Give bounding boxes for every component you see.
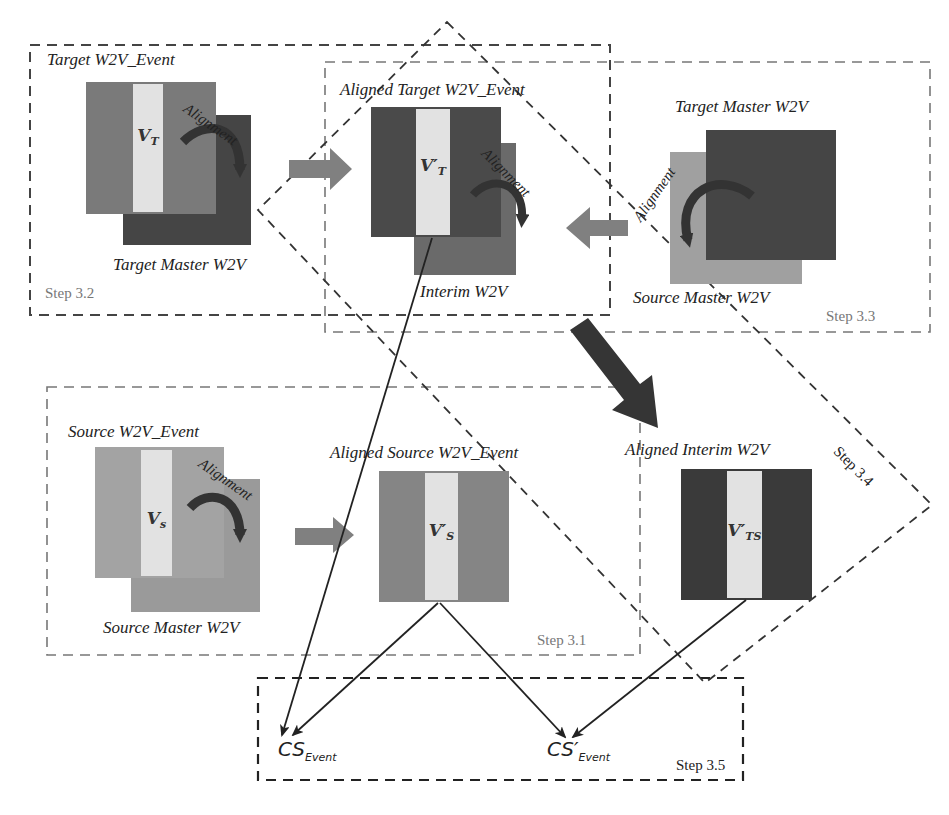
step-3-2-label: Step 3.2 bbox=[45, 285, 94, 302]
target-master-w2v-label: Target Master W2V bbox=[113, 255, 246, 275]
aligned-target-w2v-event-label: Aligned Target W2V_Event bbox=[340, 80, 525, 100]
step-3-5-region bbox=[258, 678, 743, 780]
aligned-interim-w2v-label: Aligned Interim W2V bbox=[625, 440, 769, 460]
vector-vs-label: Vs bbox=[141, 508, 172, 531]
source-master-w2v-label: Source Master W2V bbox=[103, 618, 239, 638]
block-arrow-right bbox=[289, 148, 352, 190]
step-3-5-label: Step 3.5 bbox=[676, 757, 725, 774]
vector-vs-prime-label: V′S bbox=[425, 520, 458, 543]
cs-event-prime-label: CS′Event bbox=[547, 737, 610, 764]
connector-arrow bbox=[293, 603, 438, 735]
step-3-1-label: Step 3.1 bbox=[537, 632, 586, 649]
connector-arrow bbox=[440, 603, 565, 737]
dark-arrow-down-right bbox=[570, 318, 658, 428]
aligned-source-w2v-event-label: Aligned Source W2V_Event bbox=[330, 443, 518, 463]
target-master-w2v-label-33: Target Master W2V bbox=[675, 97, 808, 117]
step-3-3-label: Step 3.3 bbox=[826, 308, 875, 325]
cs-event-label: CSEvent bbox=[278, 737, 337, 764]
alignment-diagram: Target W2V_Event Target Master W2V Align… bbox=[0, 0, 949, 815]
vector-vt-label: VT bbox=[133, 125, 163, 148]
vector-vts-prime-label: V′TS bbox=[722, 520, 767, 543]
source-master-w2v-label-33: Source Master W2V bbox=[633, 288, 769, 308]
interim-w2v-label: Interim W2V bbox=[420, 282, 507, 302]
vector-vt-prime-label: V′T bbox=[416, 155, 450, 178]
target-master-w2v-block-33 bbox=[706, 130, 836, 260]
target-w2v-event-label: Target W2V_Event bbox=[47, 50, 175, 70]
block-arrow-left bbox=[566, 207, 628, 249]
connector-arrow bbox=[573, 600, 746, 737]
source-w2v-event-label: Source W2V_Event bbox=[68, 422, 199, 442]
block-arrow-right bbox=[295, 517, 354, 553]
